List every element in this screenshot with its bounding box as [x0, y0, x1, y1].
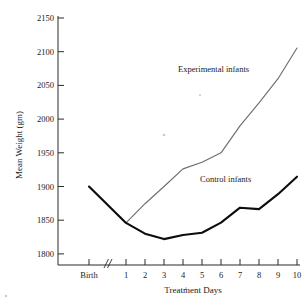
x-tick-label: 9	[276, 270, 280, 280]
scan-speck	[163, 134, 166, 137]
series-line-experimental-infants	[89, 48, 297, 223]
y-tick-label: 2000	[37, 114, 54, 124]
x-tick-label: 7	[238, 270, 242, 280]
series-label-control-infants: Control infants	[200, 174, 251, 184]
y-tick-label: 1800	[37, 249, 54, 259]
y-tick-label: 1900	[37, 182, 54, 192]
x-tick-label: 10	[293, 270, 302, 280]
y-axis-ticks	[58, 18, 64, 254]
y-axis-tick-labels: 2150 2100 2050 2000 1950 1900 1850 1800	[37, 13, 54, 259]
x-tick-label: Birth	[80, 270, 98, 280]
series-line-control-infants	[89, 177, 297, 239]
y-axis-title: Mean Weight (gm)	[14, 111, 24, 179]
chart-figure: 2150 2100 2050 2000 1950 1900 1850 1800	[0, 0, 306, 308]
x-tick-label: 4	[181, 270, 186, 280]
scan-speck	[199, 94, 201, 96]
y-tick-label: 2050	[37, 80, 54, 90]
y-tick-label: 1850	[37, 215, 54, 225]
x-axis-break-icon	[104, 259, 112, 268]
y-tick-label: 2100	[37, 47, 54, 57]
y-tick-label: 1950	[37, 148, 54, 158]
x-axis-title: Treatment Days	[164, 285, 222, 295]
x-tick-label: 8	[257, 270, 261, 280]
x-tick-label: 2	[143, 270, 147, 280]
series-label-experimental-infants: Experimental infants	[178, 64, 249, 74]
scan-speck	[5, 295, 7, 297]
x-tick-label: 5	[200, 270, 204, 280]
x-tick-label: 6	[219, 270, 223, 280]
x-tick-label: 3	[162, 270, 166, 280]
x-tick-label: 1	[124, 270, 128, 280]
y-tick-label: 2150	[37, 13, 54, 23]
axis-lines	[58, 16, 300, 265]
x-axis-ticks	[89, 259, 297, 265]
line-chart-canvas: 2150 2100 2050 2000 1950 1900 1850 1800	[0, 0, 306, 308]
x-axis-tick-labels: Birth 1 2 3 4 5 6 7 8 9 10	[80, 270, 301, 280]
